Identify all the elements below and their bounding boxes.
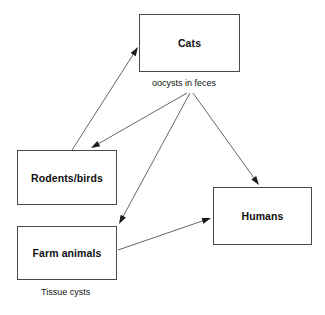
node-cats[interactable]: Cats [139,14,240,72]
node-farm-animals[interactable]: Farm animals [17,226,117,280]
node-rodents-birds[interactable]: Rodents/birds [17,150,117,205]
arrow-rodents-to-cats [72,47,138,150]
arrow-farm-to-humans [118,218,211,250]
node-cats-label: Cats [178,37,201,49]
node-humans-label: Humans [241,210,283,222]
caption-tissue-cysts: Tissue cysts [41,287,90,297]
node-humans[interactable]: Humans [213,187,312,245]
arrow-oocysts-to-farm [119,93,190,224]
caption-oocysts-in-feces: oocysts in feces [152,78,216,88]
arrow-oocysts-to-rodents [91,93,187,148]
arrow-oocysts-to-humans [193,93,259,185]
node-rodents-birds-label: Rodents/birds [31,172,103,184]
node-farm-animals-label: Farm animals [33,247,102,259]
diagram-canvas: Cats Rodents/birds Farm animals Humans o… [0,0,325,315]
